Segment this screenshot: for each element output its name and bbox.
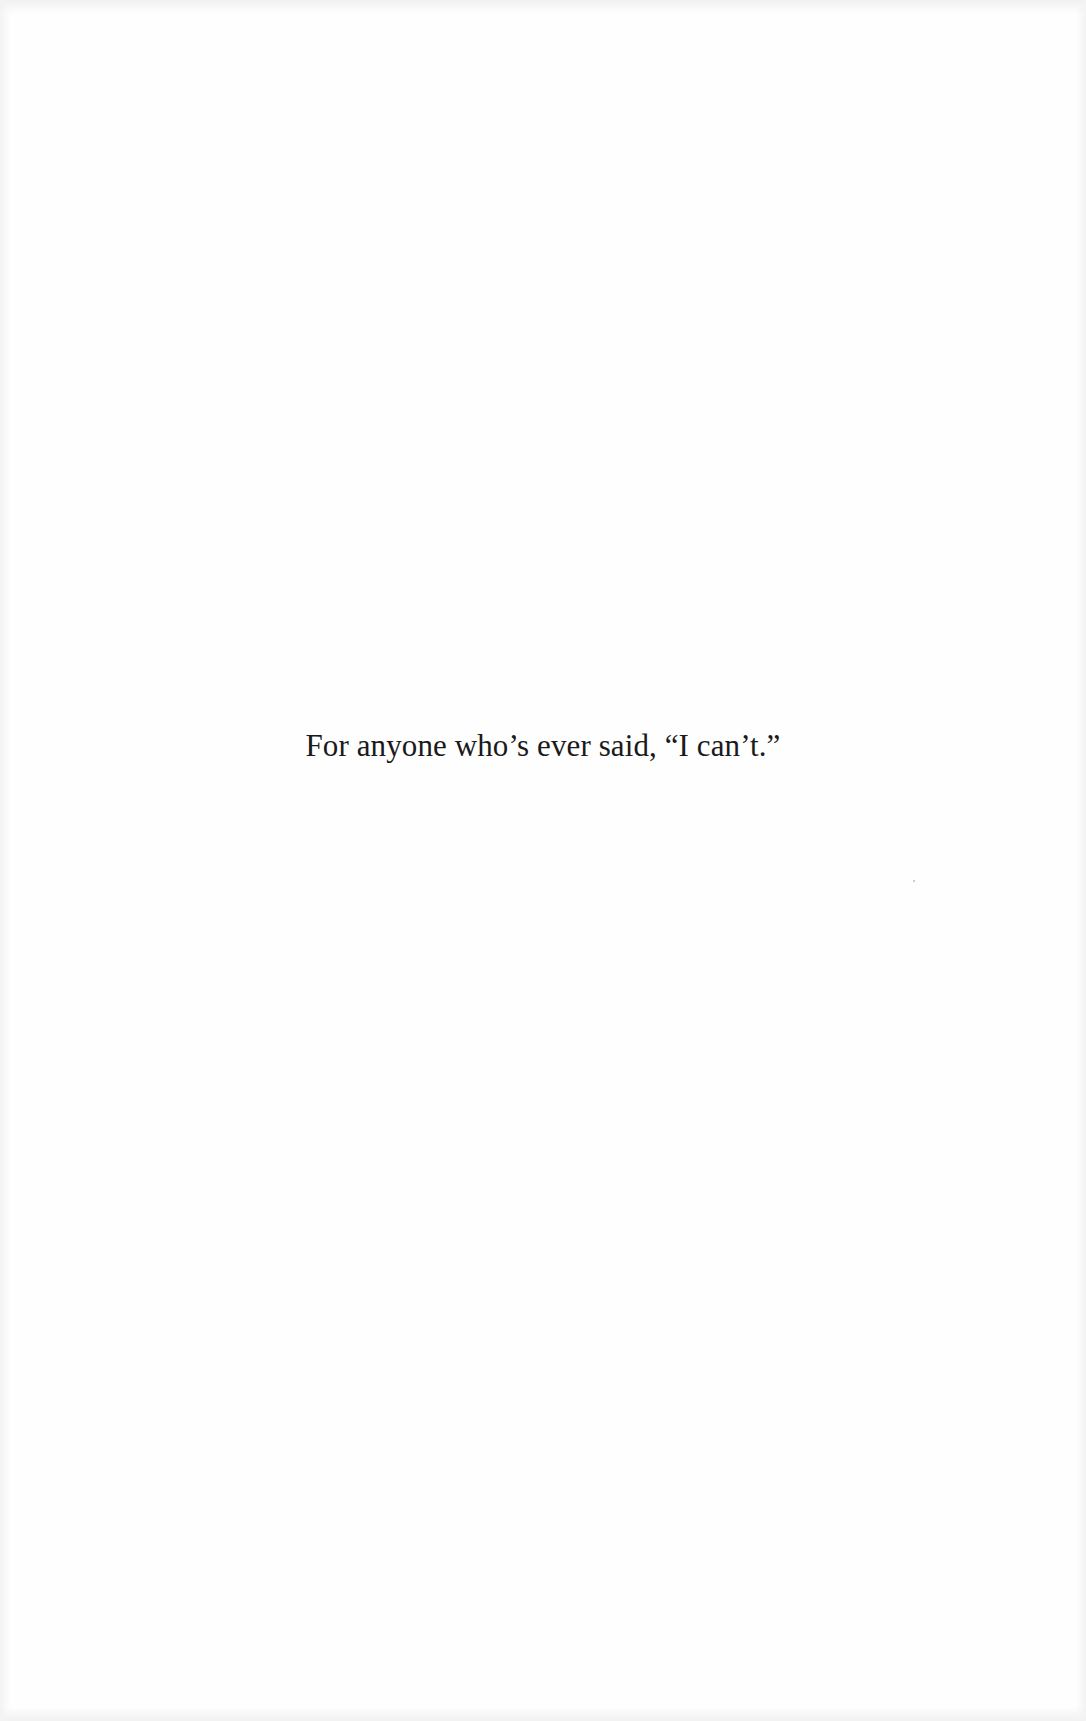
page-edge-top — [0, 0, 1086, 14]
page-edge-left — [0, 0, 10, 1721]
page-edge-bottom — [0, 1707, 1086, 1721]
scan-speck — [913, 880, 915, 882]
book-page: For anyone who’s ever said, “I can’t.” — [0, 0, 1086, 1721]
dedication-text: For anyone who’s ever said, “I can’t.” — [0, 726, 1086, 766]
page-edge-right — [1076, 0, 1086, 1721]
